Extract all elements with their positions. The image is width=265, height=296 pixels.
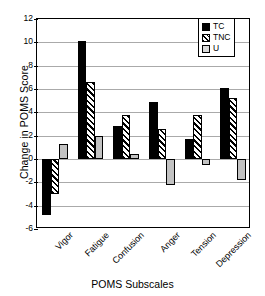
bar-group	[37, 19, 73, 227]
x-axis-tick-labels: VigorFatigueConfusionAngerTensionDepress…	[36, 228, 250, 278]
legend-swatch-icon	[202, 23, 210, 31]
y-tick-label: 0	[17, 154, 33, 162]
bar	[166, 159, 175, 185]
bar	[86, 82, 95, 159]
y-tick-label: -6	[17, 224, 33, 232]
y-tick-label: -4	[17, 201, 33, 209]
y-tick-label: 8	[17, 61, 33, 69]
bar	[193, 115, 202, 159]
bar	[202, 159, 211, 165]
bar	[113, 126, 122, 159]
legend-label: TC	[213, 22, 224, 31]
bar	[51, 159, 60, 194]
y-tick-label: 4	[17, 107, 33, 115]
y-tick-label: 10	[17, 37, 33, 45]
x-tick-label: Confusion	[110, 230, 146, 266]
bar-group	[144, 19, 180, 227]
x-tick-label: Depression	[214, 230, 253, 269]
y-axis-tick-labels: 121086420-2-4-6	[14, 18, 33, 228]
bar	[185, 139, 194, 159]
bar	[220, 88, 229, 159]
bar	[229, 98, 238, 159]
bar	[59, 144, 68, 159]
legend-swatch-icon	[202, 34, 210, 42]
bar	[42, 159, 51, 215]
legend-label: U	[213, 44, 219, 53]
x-tick-label: Tension	[189, 230, 218, 259]
x-tick-label: Anger	[158, 230, 182, 254]
bar	[149, 102, 158, 159]
bar	[130, 154, 139, 159]
bar	[237, 159, 246, 180]
bar-group	[73, 19, 109, 227]
bar	[78, 41, 87, 159]
legend-item: TC	[202, 21, 230, 32]
bar	[158, 129, 167, 159]
bar	[122, 115, 131, 159]
y-tick-label: 2	[17, 131, 33, 139]
bar	[95, 136, 104, 159]
y-tick-label: -2	[17, 177, 33, 185]
legend-item: TNC	[202, 32, 230, 43]
legend-item: U	[202, 43, 230, 54]
chart-legend: TCTNCU	[198, 18, 235, 57]
x-tick-label: Fatigue	[82, 230, 110, 258]
bar-group	[108, 19, 144, 227]
x-tick-label: Vigor	[53, 230, 75, 252]
x-axis-title: POMS Subscales	[0, 278, 265, 290]
legend-swatch-icon	[202, 45, 210, 53]
chart-figure: Change in POMS Score 121086420-2-4-6 Vig…	[0, 0, 265, 296]
y-tick-label: 6	[17, 84, 33, 92]
y-tick-label: 12	[17, 14, 33, 22]
legend-label: TNC	[213, 33, 230, 42]
